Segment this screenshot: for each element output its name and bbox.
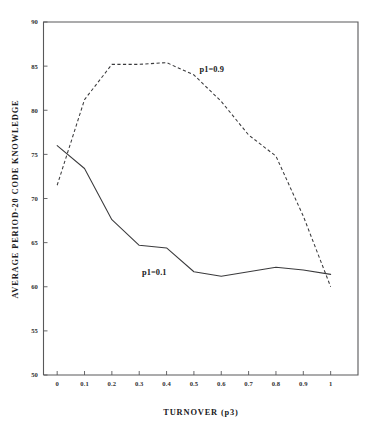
x-tick-label: 0.7 [244,380,253,387]
y-axis-ticks [44,22,48,375]
axes-frame [44,22,359,375]
x-axis-ticks [57,371,330,375]
x-tick-label: 0.4 [162,380,171,387]
y-tick-label: 90 [31,18,38,25]
line-chart: 505560657075808590 00.10.20.30.40.50.60.… [0,0,375,427]
x-tick-label: 1 [329,380,332,387]
y-tick-label: 70 [31,195,38,202]
series-line-p1-0-9 [57,63,330,287]
chart-figure: 505560657075808590 00.10.20.30.40.50.60.… [0,0,375,427]
x-tick-label: 0.1 [80,380,89,387]
series-label-p1-0-9: p1=0.9 [199,65,224,74]
y-tick-label: 65 [31,239,38,246]
x-tick-label: 0 [55,380,59,387]
series-line-p1-0-1 [57,146,330,277]
x-tick-label: 0.8 [272,380,281,387]
x-axis-tick-labels: 00.10.20.30.40.50.60.70.80.91 [55,380,332,387]
series-annotations: p1=0.9p1=0.1 [142,65,224,277]
y-axis-title: AVERAGE PERIOD-20 CODE KNOWLEDGE [11,100,20,299]
x-tick-label: 0.3 [135,380,144,387]
y-tick-label: 60 [31,283,38,290]
x-axis-title: TURNOVER (p3) [163,408,239,417]
series-label-p1-0-1: p1=0.1 [142,268,167,277]
data-series-group [57,63,330,287]
y-tick-label: 55 [31,327,38,334]
y-tick-label: 80 [31,107,38,114]
y-tick-label: 50 [31,371,38,378]
axes-spines [44,22,359,375]
y-tick-label: 85 [31,63,38,70]
x-tick-label: 0.9 [299,380,308,387]
y-tick-label: 75 [31,151,38,158]
x-tick-label: 0.5 [190,380,199,387]
x-tick-label: 0.2 [108,380,117,387]
x-tick-label: 0.6 [217,380,226,387]
y-axis-tick-labels: 505560657075808590 [31,18,38,378]
